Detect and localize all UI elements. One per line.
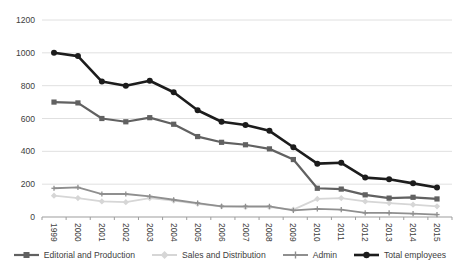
data-point-marker (123, 119, 128, 124)
x-axis-tick-label: 2015 (432, 223, 442, 242)
x-axis-tick-label: 2004 (169, 223, 179, 242)
x-axis-tick-label: 2007 (241, 223, 251, 242)
legend-label: Editorial and Production (44, 250, 135, 260)
series-sales-and-distribution (51, 193, 440, 213)
y-axis-tick-label: 800 (21, 81, 36, 91)
x-axis-tick-label: 2009 (288, 223, 298, 242)
y-axis-tick-label: 400 (21, 146, 36, 156)
legend-item-total-employees: Total employees (353, 250, 446, 260)
legend-label: Admin (313, 250, 337, 260)
legend-label: Sales and Distribution (182, 250, 266, 260)
data-point-marker (147, 115, 152, 120)
data-point-marker (291, 157, 296, 162)
data-point-marker (195, 134, 200, 139)
data-point-marker (410, 195, 415, 200)
data-point-marker (51, 50, 57, 56)
data-point-marker (51, 193, 57, 199)
data-point-marker (243, 142, 248, 147)
data-point-marker (290, 144, 296, 150)
data-point-marker (338, 195, 344, 201)
data-point-marker (75, 195, 81, 201)
legend-item-sales-and-distribution: Sales and Distribution (151, 250, 266, 260)
x-axis-tick-label: 2001 (97, 223, 107, 242)
chart-legend: Editorial and Production Sales and Distr… (0, 250, 459, 260)
data-point-marker (219, 140, 224, 145)
data-point-marker (386, 176, 392, 182)
data-point-marker (75, 53, 81, 59)
data-point-marker (171, 89, 177, 95)
data-point-marker (99, 198, 105, 204)
line-chart-svg: 0200400600800100012001999200020012002200… (0, 0, 459, 250)
data-point-marker (267, 146, 272, 151)
data-point-marker (99, 116, 104, 121)
x-axis-tick-label: 2005 (193, 223, 203, 242)
series-editorial-and-production (51, 99, 439, 201)
x-axis-tick-label: 2010 (312, 223, 322, 242)
x-axis-tick-label: 2002 (121, 223, 131, 242)
data-point-marker (410, 180, 416, 186)
legend-item-editorial-and-production: Editorial and Production (13, 250, 135, 260)
x-axis-tick-label: 1999 (49, 223, 59, 242)
data-point-marker (338, 160, 344, 166)
x-axis-tick-label: 2008 (264, 223, 274, 242)
data-point-marker (123, 83, 129, 89)
legend-marker-admin-icon (282, 250, 309, 260)
y-axis-tick-label: 200 (21, 179, 36, 189)
x-axis-tick-label: 2000 (73, 223, 83, 242)
data-point-marker (410, 202, 416, 208)
x-axis-tick-label: 2012 (360, 223, 370, 242)
data-point-marker (362, 198, 368, 204)
y-axis-tick-label: 0 (30, 212, 35, 222)
y-axis-tick-label: 1200 (16, 15, 35, 25)
data-point-marker (363, 192, 368, 197)
employees-line-chart: 0200400600800100012001999200020012002200… (0, 0, 459, 279)
data-point-marker (51, 99, 56, 104)
legend-label: Total employees (384, 250, 446, 260)
x-axis-tick-label: 2014 (408, 223, 418, 242)
legend-item-admin: Admin (282, 250, 337, 260)
y-axis-tick-label: 600 (21, 114, 36, 124)
data-point-marker (147, 78, 153, 84)
x-axis-tick-label: 2013 (384, 223, 394, 242)
data-point-marker (339, 186, 344, 191)
legend-marker-editorial-icon (13, 250, 40, 260)
data-point-marker (243, 122, 249, 128)
data-point-marker (315, 186, 320, 191)
data-point-marker (362, 175, 368, 181)
data-point-marker (75, 100, 80, 105)
data-point-marker (123, 199, 129, 205)
x-axis-tick-label: 2003 (145, 223, 155, 242)
y-axis-tick-label: 1000 (16, 48, 35, 58)
data-point-marker (219, 119, 225, 125)
data-point-marker (434, 196, 439, 201)
data-point-marker (266, 128, 272, 134)
x-axis-tick-label: 2011 (336, 223, 346, 241)
legend-marker-sales-icon (151, 250, 178, 260)
data-point-marker (314, 196, 320, 202)
data-point-marker (171, 122, 176, 127)
data-point-marker (386, 200, 392, 206)
data-point-marker (434, 184, 440, 190)
data-point-marker (99, 79, 105, 85)
data-point-marker (314, 161, 320, 167)
data-point-marker (195, 107, 201, 113)
legend-marker-total-icon (353, 250, 380, 260)
data-point-marker (387, 196, 392, 201)
data-point-marker (434, 203, 440, 209)
x-axis-tick-label: 2006 (217, 223, 227, 242)
